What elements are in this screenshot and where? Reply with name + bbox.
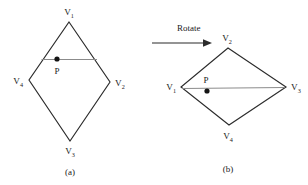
vertex-label-a-bottom: V3 xyxy=(65,146,75,158)
figure-canvas: P V1 V2 V3 V4 (a) Rotate P V2 V3 V4 V1 (… xyxy=(0,0,308,185)
operation-label: Rotate xyxy=(177,23,201,33)
vertex-label-a-left: V4 xyxy=(13,76,23,88)
panel-caption-a: (a) xyxy=(65,167,75,177)
chord-through-p-b xyxy=(182,88,285,89)
vertex-label-b-right: V3 xyxy=(291,82,301,94)
vertex-subscript: 1 xyxy=(173,87,176,94)
vertex-label-b-left: V1 xyxy=(166,82,176,94)
vertex-subscript: 2 xyxy=(122,83,125,90)
vertex-subscript: 2 xyxy=(229,38,232,45)
arrow-right-icon-head xyxy=(203,39,212,47)
interior-point-label-a: P xyxy=(54,66,59,76)
vertex-subscript: 4 xyxy=(20,81,23,88)
vertex-subscript: 3 xyxy=(298,87,301,94)
kite-outline-a xyxy=(29,22,110,141)
vertex-subscript: 4 xyxy=(230,136,233,143)
rotate-operator: Rotate xyxy=(152,23,212,47)
vertex-label-a-top: V1 xyxy=(64,7,74,19)
vertex-label-a-right: V2 xyxy=(115,78,125,90)
interior-point-dot-a xyxy=(54,56,59,61)
rotation-figure: P V1 V2 V3 V4 (a) Rotate P V2 V3 V4 V1 (… xyxy=(0,0,308,185)
interior-point-label-b: P xyxy=(203,75,208,85)
vertex-label-b-top: V2 xyxy=(222,33,232,45)
panel-caption-b: (b) xyxy=(223,164,234,174)
vertex-subscript: 1 xyxy=(71,12,74,19)
vertex-subscript: 3 xyxy=(72,151,75,158)
interior-point-dot-b xyxy=(204,88,209,93)
kite-outline-b xyxy=(181,48,286,125)
panel-a: P V1 V2 V3 V4 (a) xyxy=(13,7,124,177)
panel-b: P V2 V3 V4 V1 (b) xyxy=(166,33,300,174)
vertex-label-b-bottom: V4 xyxy=(223,131,233,143)
